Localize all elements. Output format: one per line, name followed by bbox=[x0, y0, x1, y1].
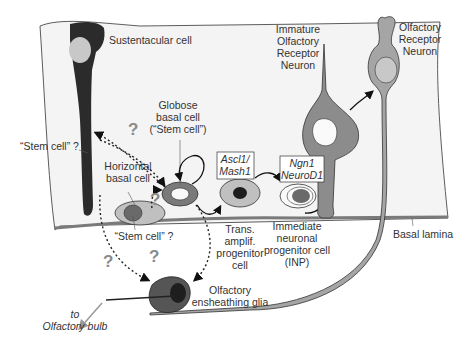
label-immature-4: Neuron bbox=[281, 59, 316, 71]
label-bulb-2: Olfactory bulb bbox=[43, 320, 108, 332]
inp-nucleus bbox=[292, 189, 310, 203]
question-mark: ? bbox=[128, 120, 138, 139]
label-ngn1-1: Ngn1 bbox=[289, 157, 314, 169]
label-tap-3: progenitor bbox=[216, 247, 264, 259]
label-stem-left: “Stem cell” ? bbox=[20, 140, 79, 152]
label-horizontal-1: Horizontal bbox=[104, 160, 151, 172]
horizontal-basal-nucleus bbox=[124, 205, 142, 221]
label-inp-2: neuronal bbox=[277, 232, 318, 244]
label-oeg-2: ensheathing glia bbox=[192, 296, 269, 308]
label-ascl1-2: Mash1 bbox=[219, 165, 251, 177]
question-mark: ? bbox=[150, 190, 160, 209]
label-inp-3: progenitor cell bbox=[264, 244, 330, 256]
label-ascl1-1: Ascl1/ bbox=[220, 153, 251, 165]
label-oeg-1: Olfactory bbox=[209, 284, 252, 296]
label-globose-3: (“Stem cell”) bbox=[149, 123, 206, 135]
label-immature-1: Immature bbox=[276, 23, 321, 35]
globose-basal-nucleus bbox=[171, 188, 189, 200]
label-orn-2: Receptor bbox=[399, 33, 442, 45]
label-orn-3: Neuron bbox=[403, 45, 438, 57]
oeg-nucleus bbox=[170, 283, 186, 303]
label-globose-2: basal cell bbox=[156, 111, 200, 123]
label-tap-1: Trans. bbox=[225, 223, 254, 235]
label-inp-1: Immediate bbox=[272, 220, 321, 232]
transit-amplifying-nucleus bbox=[233, 187, 247, 199]
label-inp-4: (INP) bbox=[285, 256, 310, 268]
label-stem-bottom: “Stem cell” ? bbox=[115, 230, 174, 242]
mature-orn-nucleus bbox=[375, 57, 397, 83]
question-mark: ? bbox=[149, 247, 159, 266]
question-mark: ? bbox=[103, 252, 113, 271]
diagram: ? ? ? ? Sustentacular cell Globose basal… bbox=[0, 0, 470, 346]
label-orn-1: Olfactory bbox=[399, 21, 442, 33]
label-basal-lamina: Basal lamina bbox=[393, 228, 453, 240]
label-ngn1-2: NeuroD1 bbox=[281, 169, 323, 181]
label-horizontal-2: basal cell bbox=[106, 172, 150, 184]
label-globose-1: Globose bbox=[158, 99, 197, 111]
basal-lamina-pointer bbox=[412, 218, 413, 226]
sustentacular-nucleus bbox=[69, 37, 91, 63]
label-bulb-1: to bbox=[71, 308, 80, 320]
label-immature-3: Receptor bbox=[277, 47, 320, 59]
label-tap-2: amplif. bbox=[225, 235, 256, 247]
label-tap-4: cell bbox=[232, 259, 248, 271]
label-immature-2: Olfactory bbox=[277, 35, 320, 47]
immature-orn-nucleus bbox=[313, 119, 337, 146]
label-sustentacular: Sustentacular cell bbox=[109, 34, 192, 46]
